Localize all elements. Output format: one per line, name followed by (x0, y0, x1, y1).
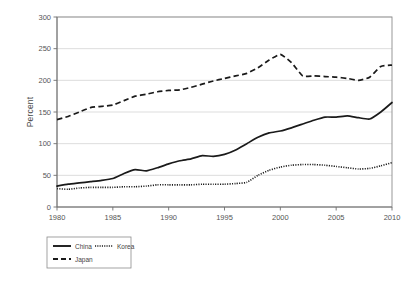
x-tick-label: 1980 (49, 213, 66, 222)
y-tick-label: 50 (43, 171, 51, 180)
y-tick-label: 300 (38, 13, 51, 22)
y-tick-label: 200 (38, 76, 51, 85)
x-tick-label: 2000 (272, 213, 289, 222)
x-tick-label: 1985 (104, 213, 121, 222)
series-line-korea (57, 163, 392, 190)
y-axis-title: Percent (25, 96, 35, 127)
x-axis-ticks: 1980198519901995200020052010 (49, 207, 401, 222)
line-chart-figure: 050100150200250300 198019851990199520002… (0, 0, 413, 282)
series-line-japan (57, 54, 392, 119)
legend-label-china: China (75, 243, 92, 250)
legend-label-korea: Korea (117, 243, 135, 250)
x-tick-label: 2005 (328, 213, 345, 222)
legend-label-japan: Japan (75, 256, 93, 264)
plot-gridlines (57, 17, 392, 175)
y-tick-label: 100 (38, 139, 51, 148)
x-tick-label: 2010 (384, 213, 401, 222)
series-line-china (57, 103, 392, 187)
chart-legend: China Korea Japan (47, 237, 135, 268)
data-series-group (57, 54, 392, 189)
x-tick-label: 1995 (216, 213, 233, 222)
y-tick-label: 0 (47, 203, 51, 212)
y-tick-label: 150 (38, 108, 51, 117)
y-tick-label: 250 (38, 44, 51, 53)
y-axis-ticks: 050100150200250300 (38, 13, 57, 212)
x-tick-label: 1990 (160, 213, 177, 222)
